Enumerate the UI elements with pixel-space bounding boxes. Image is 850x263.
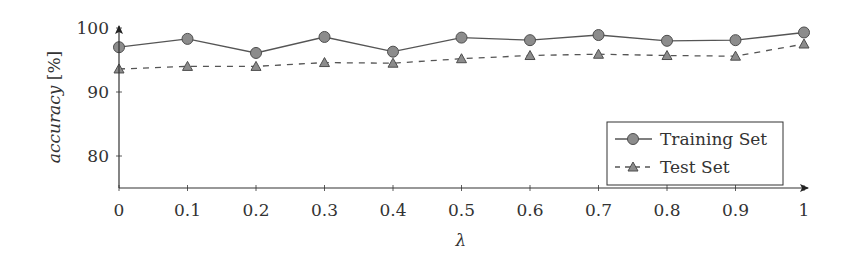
x-tick-label: 0.5 <box>448 200 475 220</box>
y-axis-label-unit: [%] <box>44 51 64 86</box>
x-tick-label: 0.3 <box>311 200 338 220</box>
legend-label-training: Training Set <box>660 129 767 149</box>
circle-marker <box>182 33 193 44</box>
x-tick-label: 0.9 <box>722 200 749 220</box>
x-tick-label: 0.1 <box>174 200 201 220</box>
y-tick-label: 80 <box>87 146 109 166</box>
circle-marker-icon <box>628 134 639 145</box>
x-tick-label: 0.8 <box>653 200 680 220</box>
x-axis-ticks: 00.10.20.30.40.50.60.70.80.91 <box>114 185 810 220</box>
circle-marker <box>319 31 330 42</box>
x-tick-label: 0.2 <box>242 200 269 220</box>
y-axis-label-text: accuracy <box>44 85 64 163</box>
plot-area: 8090100 00.10.20.30.40.50.60.70.80.91 <box>77 18 810 220</box>
circle-marker <box>456 32 467 43</box>
x-tick-label: 0.4 <box>379 200 406 220</box>
circle-marker <box>799 27 810 38</box>
legend-label-test: Test Set <box>660 157 730 177</box>
circle-marker <box>593 30 604 41</box>
triangle-marker <box>457 54 467 63</box>
y-tick-label: 90 <box>87 82 109 102</box>
x-axis-label: λ <box>455 230 467 250</box>
circle-marker <box>388 46 399 57</box>
x-tick-label: 0 <box>114 200 125 220</box>
series-layer <box>114 27 810 73</box>
x-tick-label: 1 <box>799 200 810 220</box>
legend: Training Set Test Set <box>607 122 783 185</box>
x-tick-label: 0.6 <box>516 200 543 220</box>
circle-marker <box>251 47 262 58</box>
circle-marker <box>525 35 536 46</box>
x-tick-label: 0.7 <box>585 200 612 220</box>
series-test-set <box>114 39 809 73</box>
triangle-marker <box>525 51 535 60</box>
triangle-marker <box>799 39 809 48</box>
accuracy-line-chart: 8090100 00.10.20.30.40.50.60.70.80.91 λ … <box>0 0 850 263</box>
y-axis-label: accuracy [%] <box>44 51 64 163</box>
circle-marker <box>730 35 741 46</box>
svg-text:accuracy [%]: accuracy [%] <box>44 51 64 163</box>
y-axis-ticks: 8090100 <box>77 18 122 166</box>
y-tick-label: 100 <box>77 18 109 38</box>
circle-marker <box>662 35 673 46</box>
